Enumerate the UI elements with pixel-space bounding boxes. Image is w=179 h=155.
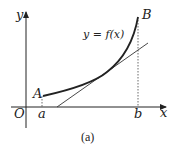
x-axis-label: x: [160, 105, 168, 120]
point-b-label: B: [141, 7, 152, 22]
caption: (a): [81, 130, 94, 144]
y-axis-label: y: [15, 7, 24, 22]
diagram-canvas: y x O a b A B y = f(x) (a): [0, 0, 179, 155]
tick-a-label: a: [38, 106, 46, 121]
origin-label: O: [14, 106, 25, 121]
point-a-label: A: [32, 86, 42, 101]
tick-b-label: b: [134, 106, 142, 121]
curve-label: y = f(x): [82, 28, 124, 41]
